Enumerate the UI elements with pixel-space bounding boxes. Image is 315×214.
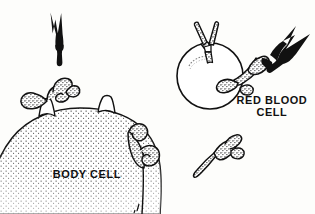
illustration-canvas: RED BLOOD CELL BODY CELL xyxy=(0,0,315,214)
free-antibody-stippled-icon xyxy=(194,135,245,177)
body-cell-label: BODY CELL xyxy=(47,168,127,180)
bound-antibody-black-icon xyxy=(261,26,310,73)
free-antibody-black-icon xyxy=(51,13,64,67)
red-blood-cell-label: RED BLOOD CELL xyxy=(233,94,311,119)
